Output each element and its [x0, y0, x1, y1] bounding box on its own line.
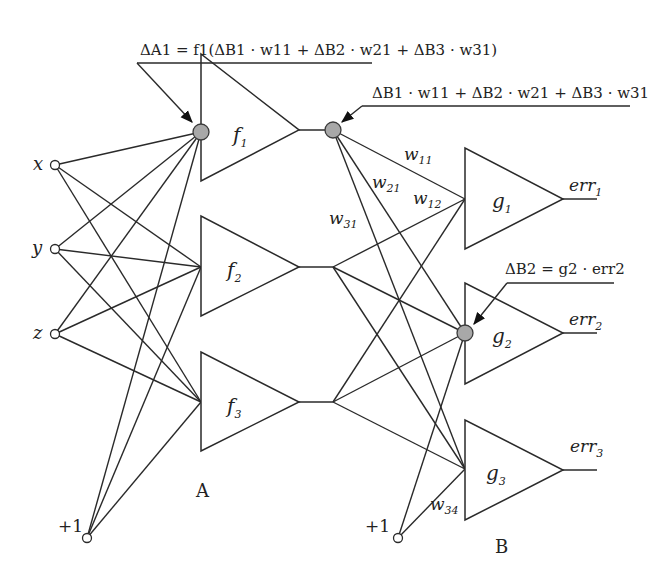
- svg-text:w34: w34: [430, 494, 459, 517]
- svg-text:ΔB1 · w11 + ΔB2 · w21 + ΔB3 ·: ΔB1 · w11 + ΔB2 · w21 + ΔB3 · w31: [372, 84, 649, 102]
- highlight-node-B2: [457, 325, 473, 341]
- annotation-delta-A1: ΔA1 = f1(ΔB1 · w11 + ΔB2 · w21 + ΔB3 · w…: [137, 41, 497, 122]
- node-f2: f2: [201, 216, 299, 316]
- input-x: x: [33, 153, 60, 174]
- highlight-node-A1: [193, 124, 209, 140]
- weight-labels: w11 w21 w12 w31 w34: [329, 144, 459, 517]
- svg-text:ΔA1 = f1(ΔB1 · w11 + ΔB2 · w21: ΔA1 = f1(ΔB1 · w11 + ΔB2 · w21 + ΔB3 · w…: [140, 41, 497, 59]
- layer-B-label: B: [495, 536, 508, 557]
- input-z: z: [32, 322, 60, 343]
- svg-text:x: x: [33, 153, 43, 174]
- layer-A-output-stubs: [299, 130, 333, 402]
- input-to-A-connections: [55, 132, 201, 538]
- bias-A: +1: [58, 516, 92, 543]
- highlight-node-sum: [325, 122, 341, 138]
- svg-text:err1: err1: [569, 175, 602, 199]
- svg-text:err2: err2: [569, 309, 602, 333]
- svg-text:+1: +1: [365, 516, 390, 536]
- svg-text:w21: w21: [372, 172, 401, 195]
- node-g2: g2 err2: [465, 283, 602, 384]
- svg-text:ΔB2 = g2 · err2: ΔB2 = g2 · err2: [505, 260, 625, 278]
- node-g1: g1 err1: [465, 148, 602, 249]
- layer-A-label: A: [195, 480, 210, 501]
- svg-text:y: y: [31, 237, 43, 258]
- annotation-weighted-sum: ΔB1 · w11 + ΔB2 · w21 + ΔB3 · w31: [342, 84, 649, 122]
- node-g3: g3 err3: [465, 420, 603, 520]
- node-f1: f1: [201, 54, 299, 181]
- svg-text:w11: w11: [404, 144, 433, 167]
- svg-text:z: z: [32, 322, 43, 343]
- input-y: y: [31, 237, 60, 258]
- node-f3: f3: [201, 352, 299, 451]
- svg-text:w31: w31: [329, 208, 358, 231]
- svg-text:w12: w12: [413, 188, 442, 211]
- svg-text:err3: err3: [570, 436, 603, 460]
- bias-B: +1: [365, 516, 403, 543]
- svg-text:+1: +1: [58, 516, 83, 536]
- network-diagram: f1 f2 f3 g1 err1 g2 err2 g3 err3 x y z: [0, 0, 653, 579]
